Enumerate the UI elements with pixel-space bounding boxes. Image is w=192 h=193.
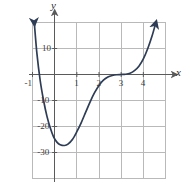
x-tick-label: 1: [74, 78, 79, 88]
x-axis-label: x: [176, 66, 181, 78]
y-axis-label: y: [51, 0, 56, 11]
x-tick-label: 3: [119, 78, 124, 88]
x-tick-label: 4: [141, 78, 146, 88]
y-tick-label: 10: [42, 43, 51, 53]
x-tick-label: -1: [25, 78, 33, 88]
y-tick-label: -20: [37, 121, 49, 131]
y-tick-label: -30: [37, 147, 49, 157]
x-tick-label: 2: [97, 78, 102, 88]
function-curve: [34, 23, 155, 146]
y-tick-label: -10: [37, 95, 49, 105]
plot-canvas: [0, 0, 192, 193]
chart-figure: y x -11234 10-10-20-30: [0, 0, 192, 193]
